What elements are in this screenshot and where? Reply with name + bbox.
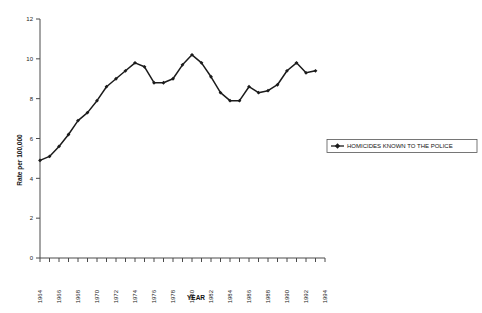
x-tick-label: 1986 [246,289,252,303]
y-axis-ticks [36,19,40,258]
y-tick-label: 4 [30,176,34,182]
x-tick-label: 1988 [265,289,271,303]
x-axis: 1964196619681970197219741976197819801982… [37,258,328,303]
x-tick-label: 1978 [170,289,176,303]
x-tick-label: 1972 [113,289,119,303]
x-tick-label: 1964 [37,289,43,303]
data-point-marker [314,69,318,73]
y-tick-label: 8 [30,96,34,102]
x-tick-label: 1982 [208,289,214,303]
x-tick-label: 1966 [56,289,62,303]
y-tick-label: 2 [30,215,34,221]
y-axis-tick-labels: 024681012 [26,16,33,261]
x-axis-title: YEAR [187,294,205,301]
y-tick-label: 12 [26,16,33,22]
x-tick-label: 1994 [322,289,328,303]
line-chart: 024681012 196419661968197019721974197619… [0,0,482,313]
legend: HOMICIDES KNOWN TO THE POLICE [327,140,477,153]
x-tick-label: 1968 [75,289,81,303]
x-tick-label: 1984 [227,289,233,303]
y-tick-label: 0 [30,255,34,261]
x-tick-label: 1974 [132,289,138,303]
y-tick-label: 6 [30,136,34,142]
x-tick-label: 1976 [151,289,157,303]
series-line-homicides [40,55,316,161]
x-axis-tick-labels: 1964196619681970197219741976197819801982… [37,289,328,303]
x-axis-ticks [40,258,325,262]
chart-container: 024681012 196419661968197019721974197619… [0,0,482,313]
x-tick-label: 1990 [284,289,290,303]
legend-label-homicides: HOMICIDES KNOWN TO THE POLICE [347,143,453,149]
x-tick-label: 1970 [94,289,100,303]
y-axis-title: Rate per 100,000 [16,134,24,186]
plot-area [38,53,317,162]
series-markers-homicides [38,53,317,162]
y-tick-label: 10 [26,56,33,62]
x-tick-label: 1992 [303,289,309,303]
y-axis: 024681012 [26,16,40,261]
